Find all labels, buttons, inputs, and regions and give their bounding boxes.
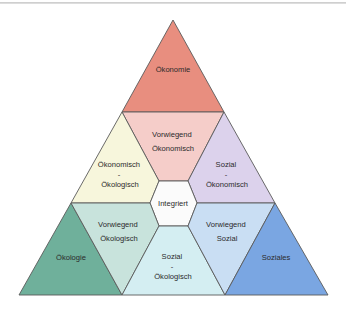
sustainability-triangle-diagram: Ökonomie Vorwiegend Ökonomisch Ökonomisc…	[0, 0, 346, 310]
region-oekonomie[interactable]: Ökonomie	[122, 20, 224, 112]
region-integriert[interactable]: Integriert	[150, 181, 197, 226]
